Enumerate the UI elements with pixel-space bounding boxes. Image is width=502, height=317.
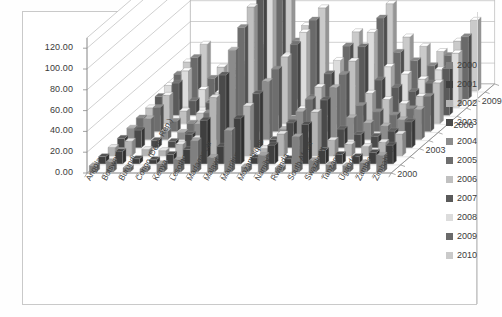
- legend-swatch-icon: [446, 138, 453, 145]
- legend-swatch-icon: [446, 176, 453, 183]
- y-axis-tick-label: 20.00: [19, 146, 73, 156]
- bar: [424, 93, 435, 131]
- legend-item[interactable]: 2005: [446, 151, 496, 170]
- bar: [144, 116, 155, 140]
- legend-item[interactable]: 2010: [446, 246, 496, 265]
- bar: [300, 29, 311, 107]
- legend-label: 2004: [457, 137, 477, 146]
- legend-item[interactable]: 2004: [446, 132, 496, 151]
- bar: [281, 54, 292, 124]
- legend-item[interactable]: 2000: [446, 56, 496, 75]
- legend-swatch-icon: [446, 62, 453, 69]
- bar: [134, 127, 145, 148]
- bar: [414, 106, 425, 139]
- legend-item[interactable]: 2001: [446, 75, 496, 94]
- y-axis-tick-label: 120.00: [19, 42, 73, 52]
- legend-label: 2001: [457, 80, 477, 89]
- y-axis-tick-label: 80.00: [19, 84, 73, 94]
- depth-axis-tick-label: 2003: [425, 145, 445, 155]
- bar: [179, 108, 190, 123]
- legend-label: 2006: [457, 175, 477, 184]
- legend-swatch-icon: [446, 252, 453, 259]
- legend-swatch-icon: [446, 233, 453, 240]
- legend-label: 2000: [457, 61, 477, 70]
- bar: [405, 119, 416, 148]
- chart-legend: 2000200120022003200420052006200720082009…: [446, 56, 496, 265]
- bar: [433, 80, 444, 124]
- y-axis-tick-label: 100.00: [19, 63, 73, 73]
- y-axis-tick-label: 40.00: [19, 125, 73, 135]
- bar: [271, 66, 282, 131]
- bar: [262, 78, 273, 139]
- legend-swatch-icon: [446, 157, 453, 164]
- legend-item[interactable]: 2006: [446, 170, 496, 189]
- legend-divider: [477, 12, 478, 304]
- bar: [395, 131, 406, 156]
- legend-swatch-icon: [446, 81, 453, 88]
- legend-swatch-icon: [446, 195, 453, 202]
- legend-item[interactable]: 2009: [446, 227, 496, 246]
- legend-swatch-icon: [446, 100, 453, 107]
- legend-item[interactable]: 2008: [446, 208, 496, 227]
- legend-label: 2008: [457, 213, 477, 222]
- y-axis-tick-label: 0.00: [19, 167, 73, 177]
- y-axis-tick-label: 60.00: [19, 105, 73, 115]
- legend-label: 2007: [457, 194, 477, 203]
- depth-axis-tick-label: 2006: [454, 120, 474, 130]
- depth-axis-tick-label: 2000: [397, 169, 417, 179]
- legend-label: 2002: [457, 99, 477, 108]
- bar: [290, 42, 301, 116]
- legend-label: 2005: [457, 156, 477, 165]
- legend-label: 2009: [457, 232, 477, 241]
- depth-axis-tick-label: 2009: [482, 96, 502, 106]
- legend-swatch-icon: [446, 214, 453, 221]
- legend-label: 2010: [457, 251, 477, 260]
- legend-swatch-icon: [446, 119, 453, 126]
- legend-item[interactable]: 2007: [446, 189, 496, 208]
